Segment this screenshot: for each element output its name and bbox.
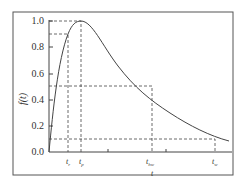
y-tick-label: 0.6 [32,68,45,79]
reference-lines [49,21,215,152]
y-tick-label: 0.8 [32,41,45,52]
y-ticks [49,21,166,152]
x-tick-t-r: tr [66,157,70,167]
x-axis-label: t [151,169,154,178]
frame [13,12,233,175]
x-tick-t-hw: thw [146,157,155,167]
y-axis-label: f(t) [17,92,29,105]
x-tick-t-w: tw [212,157,218,167]
y-tick-label: 0.2 [32,120,45,131]
x-tick-t-p: tp [79,157,84,167]
chart: 1.0 0.8 0.6 0.4 0.2 0.0 f(t) tr tp thw t… [0,0,246,195]
curve [49,21,229,152]
y-tick-label: 0.0 [32,146,45,157]
y-tick-label: 1.0 [32,15,45,26]
y-tick-label: 0.4 [32,94,45,105]
